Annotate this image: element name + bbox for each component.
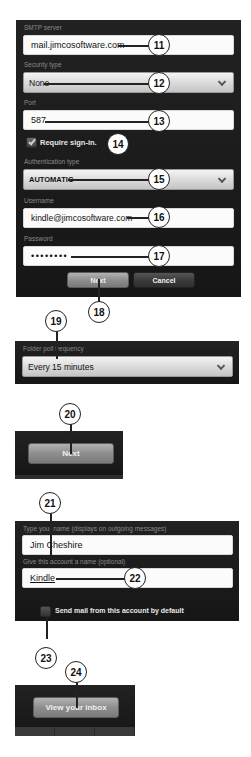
checkmark-icon [28,138,36,146]
callout-15-leader [68,179,150,181]
your-name-input[interactable]: Jim Cheshire [22,535,233,555]
password-value: •••••••• [31,251,68,261]
view-inbox-panel: View your inbox [15,685,135,736]
smtp-server-label: SMTP server [24,24,62,31]
callout-24-leader [76,682,78,708]
callout-13-leader [45,121,150,123]
port-input[interactable]: 587 [23,110,234,130]
callout-24: 24 [65,661,87,683]
poll-frequency-dropdown[interactable]: Every 15 minutes [22,356,233,377]
your-name-value: Jim Cheshire [30,540,83,550]
callout-16: 16 [148,206,170,228]
password-label: Password [24,235,53,242]
require-signin-checkbox[interactable] [26,137,37,148]
cancel-button[interactable]: Cancel [133,272,195,288]
chevron-down-icon [218,174,226,182]
security-type-label: Security type [24,61,62,68]
callout-16-leader [127,217,150,219]
chevron-down-icon [217,361,225,369]
username-value: kindle@jimcosoftware.com [31,213,132,223]
callout-19: 19 [45,310,67,332]
callout-17: 17 [148,245,170,267]
bottom-bar [15,475,123,479]
callout-23-leader [46,617,48,639]
bottom-bar [15,727,135,736]
callout-20: 20 [59,403,81,425]
chevron-down-icon [218,77,226,85]
port-value: 587 [31,115,46,125]
poll-frequency-panel: Folder poll frequency Every 15 minutes [15,341,239,384]
smtp-server-value: mail.jimcosoftware.com [31,40,125,50]
callout-17-leader [71,256,150,258]
next-panel: Next [15,431,123,479]
require-signin-label: Require sign-in. [40,138,97,147]
callout-11-leader [118,45,150,47]
callout-12: 12 [148,72,170,94]
callout-19-leader [56,331,58,359]
poll-frequency-label: Folder poll frequency [23,345,84,352]
account-name-value: Kindle [30,573,55,583]
callout-18: 18 [88,301,110,323]
callout-23: 23 [35,647,57,669]
auth-type-label: Authentication type [24,158,79,165]
callout-18-leader [98,279,100,303]
poll-frequency-value: Every 15 minutes [28,362,94,372]
callout-21-leader [50,513,52,555]
default-send-checkbox[interactable] [40,606,51,617]
callout-20-leader [70,424,72,454]
callout-12-leader [44,83,150,85]
default-send-label: Send mail from this account by default [55,607,184,614]
your-name-label: Type your name (displays on outgoing mes… [23,525,166,532]
callout-13: 13 [148,110,170,132]
callout-14: 14 [107,133,129,155]
port-label: Port [24,99,36,106]
callout-21: 21 [39,492,61,514]
username-label: Username [24,197,54,204]
callout-22: 22 [124,567,146,589]
auth-type-value: AUTOMATIC [29,175,73,184]
account-name-label: Give this account a name (optional) [23,558,125,565]
callout-22-leader [56,578,126,580]
callout-15: 15 [148,168,170,190]
callout-11: 11 [148,34,170,56]
